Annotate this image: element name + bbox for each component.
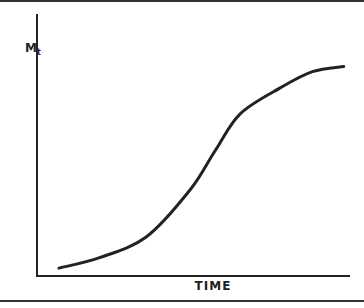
sigmoid-curve — [59, 66, 344, 268]
plot-area — [0, 0, 364, 308]
